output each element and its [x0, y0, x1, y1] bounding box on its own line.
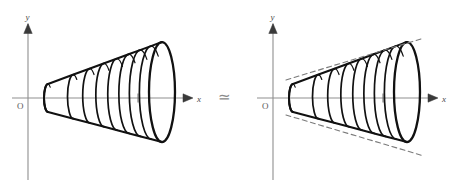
cross-section-ellipse-far-hint — [74, 75, 77, 80]
cross-section-ellipse-far-hint — [90, 69, 94, 75]
y-axis-label: y — [270, 12, 275, 22]
cone-body-left — [44, 42, 175, 142]
relation-symbol: ≃ — [213, 86, 235, 108]
figure-canvas: xyOxyO ≃ — [0, 0, 459, 192]
cross-section-ellipse-mouth — [149, 42, 175, 142]
x-axis-label: x — [441, 94, 446, 104]
panel-left: xyO — [12, 12, 201, 180]
x-axis-arrowhead — [428, 94, 438, 102]
cross-section-ellipse-far-hint — [319, 75, 322, 80]
cross-section-ellipse-far-hint — [48, 84, 50, 87]
y-axis-arrowhead — [24, 24, 32, 34]
cone-body-right — [289, 42, 420, 142]
origin-label: O — [262, 101, 269, 111]
cross-section-ellipse — [67, 75, 73, 119]
y-axis-label: y — [25, 12, 30, 22]
cross-section-ellipse — [83, 69, 90, 124]
cross-section-ellipse-far-hint — [335, 69, 339, 75]
cross-section-ellipse-mouth — [394, 42, 420, 142]
x-axis-arrowhead — [183, 94, 193, 102]
cross-section-ellipse — [364, 54, 374, 133]
y-axis-arrowhead — [269, 24, 277, 34]
cross-section-ellipse — [328, 69, 335, 124]
panel-right: xyO — [257, 12, 446, 180]
cross-section-ellipse — [341, 63, 349, 127]
cross-section-ellipse-far-hint — [104, 63, 109, 70]
cross-section-ellipse — [312, 75, 318, 119]
origin-label: O — [17, 101, 24, 111]
tangent-line-lower-asymptote — [286, 115, 424, 156]
cross-section-ellipse-far-hint — [293, 84, 295, 87]
cross-section-ellipse-far-hint — [349, 63, 354, 70]
cross-section-ellipse — [96, 63, 104, 127]
x-axis-label: x — [196, 94, 201, 104]
cross-section-ellipse — [119, 54, 129, 133]
